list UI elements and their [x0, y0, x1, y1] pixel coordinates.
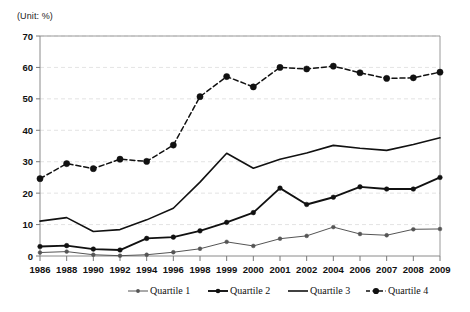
legend-label-3: Quartile 3: [310, 285, 350, 296]
x-tick-label: 1988: [56, 264, 77, 275]
series-marker-2: [304, 202, 309, 207]
x-tick-label: 2001: [269, 264, 291, 275]
series-marker-4: [437, 69, 443, 75]
series-marker-1: [305, 234, 309, 238]
series-marker-4: [304, 66, 310, 72]
series-marker-2: [278, 186, 283, 191]
series-marker-2: [144, 236, 149, 241]
series-marker-1: [358, 232, 362, 236]
series-marker-4: [330, 63, 336, 69]
legend-marker-1: [136, 289, 140, 293]
series-marker-4: [357, 70, 363, 76]
legend-marker-2: [216, 289, 221, 294]
series-marker-1: [411, 227, 415, 231]
series-marker-2: [438, 175, 443, 180]
y-tick-label: 30: [22, 156, 33, 167]
series-marker-1: [278, 237, 282, 241]
x-tick-label: 2000: [243, 264, 264, 275]
x-tick-label: 1990: [83, 264, 104, 275]
x-tick-label: 2004: [323, 264, 345, 275]
data-series: [37, 63, 443, 258]
y-tick-label: 60: [22, 62, 33, 73]
gridlines: [40, 36, 440, 225]
x-tick-label: 1996: [163, 264, 184, 275]
legend-label-4: Quartile 4: [388, 285, 428, 296]
x-tick-label: 2006: [349, 264, 370, 275]
plot-frame: [40, 36, 440, 256]
series-marker-2: [224, 220, 229, 225]
series-marker-4: [410, 75, 416, 81]
series-marker-1: [198, 247, 202, 251]
x-tick-label: 1992: [109, 264, 130, 275]
series-marker-2: [118, 248, 123, 253]
x-axis-ticks: 1986198819901992199419961998199920002001…: [29, 256, 450, 275]
series-marker-4: [170, 142, 176, 148]
chart-legend: Quartile 1Quartile 2Quartile 3Quartile 4: [128, 285, 428, 296]
x-tick-label: 2007: [376, 264, 397, 275]
series-marker-1: [118, 254, 122, 258]
series-marker-1: [225, 240, 229, 244]
y-tick-label: 50: [22, 93, 33, 104]
series-marker-1: [251, 244, 255, 248]
series-marker-1: [145, 253, 149, 257]
chart-canvas: 010203040506070 198619881990199219941996…: [0, 0, 470, 312]
series-marker-2: [358, 185, 363, 190]
series-marker-1: [91, 253, 95, 257]
y-tick-label: 20: [22, 188, 33, 199]
series-marker-4: [90, 166, 96, 172]
series-marker-1: [65, 250, 69, 254]
series-marker-2: [384, 187, 389, 192]
legend-marker-4: [373, 288, 379, 294]
series-marker-2: [171, 235, 176, 240]
y-axis-ticks: 010203040506070: [22, 31, 40, 262]
x-tick-label: 2009: [429, 264, 450, 275]
series-marker-2: [331, 195, 336, 200]
series-marker-1: [385, 233, 389, 237]
x-tick-label: 1998: [189, 264, 210, 275]
series-marker-4: [250, 84, 256, 90]
series-marker-1: [438, 227, 442, 231]
series-marker-2: [251, 210, 256, 215]
y-tick-label: 10: [22, 219, 33, 230]
series-marker-2: [91, 247, 96, 252]
y-tick-label: 70: [22, 31, 33, 42]
series-marker-2: [198, 229, 203, 234]
series-marker-4: [64, 161, 70, 167]
series-marker-4: [117, 156, 123, 162]
series-marker-2: [411, 187, 416, 192]
series-marker-1: [331, 225, 335, 229]
series-marker-2: [64, 243, 69, 248]
series-marker-2: [38, 244, 43, 249]
line-chart: (Unit: %) 010203040506070 19861988199019…: [0, 0, 470, 312]
series-marker-4: [37, 176, 43, 182]
x-tick-label: 1994: [136, 264, 158, 275]
series-marker-4: [144, 158, 150, 164]
series-marker-4: [197, 94, 203, 100]
legend-label-1: Quartile 1: [150, 285, 190, 296]
x-tick-label: 1986: [29, 264, 50, 275]
x-tick-label: 2008: [403, 264, 424, 275]
y-tick-label: 40: [22, 125, 33, 136]
series-marker-4: [384, 75, 390, 81]
y-tick-label: 0: [28, 251, 33, 262]
legend-label-2: Quartile 2: [230, 285, 270, 296]
x-tick-label: 2002: [296, 264, 317, 275]
series-marker-4: [277, 64, 283, 70]
series-line-2: [40, 177, 440, 250]
series-marker-4: [224, 73, 230, 79]
series-marker-1: [171, 250, 175, 254]
x-tick-label: 1999: [216, 264, 237, 275]
series-marker-1: [38, 251, 42, 255]
